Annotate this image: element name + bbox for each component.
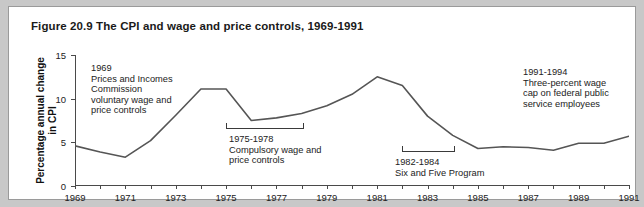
figure-title: Figure 20.9 The CPI and wage and price c… — [31, 20, 363, 32]
x-tick-label: 1987 — [518, 192, 539, 203]
x-tick-label: 1981 — [367, 192, 388, 203]
y-tick-label: 10 — [55, 93, 66, 104]
bracket-1975-1978 — [226, 123, 304, 129]
y-tick-label: 15 — [55, 50, 66, 61]
x-tick-label: 1971 — [115, 192, 136, 203]
x-tick-label: 1973 — [165, 192, 186, 203]
x-tick-label: 1979 — [316, 192, 337, 203]
y-tick-label: 5 — [61, 137, 66, 148]
y-tick-label: 0 — [61, 181, 66, 192]
x-tick-label: 1969 — [64, 192, 85, 203]
x-tick-label: 1975 — [216, 192, 237, 203]
x-tick-label: 1977 — [266, 192, 287, 203]
figure-card: Figure 20.9 The CPI and wage and price c… — [8, 6, 636, 200]
x-tick-label: 1991 — [618, 192, 639, 203]
x-tick-label: 1989 — [568, 192, 589, 203]
annotation-six-and-five-program: 1982-1984 Six and Five Program — [395, 157, 484, 178]
x-tick-label: 1983 — [417, 192, 438, 203]
annotation-prices-incomes-commission: 1969 Prices and Incomes Commission volun… — [91, 63, 173, 116]
x-tick-label: 1985 — [467, 192, 488, 203]
y-axis-title: Percentage annual change in CPI — [35, 55, 59, 186]
annotation-compulsory-wage-price-controls: 1975-1978 Compulsory wage and price cont… — [229, 134, 322, 166]
annotation-three-percent-wage-cap: 1991-1994 Three-percent wage cap on fede… — [523, 67, 609, 109]
bracket-1982-1984 — [402, 146, 454, 152]
x-tick — [629, 185, 630, 189]
